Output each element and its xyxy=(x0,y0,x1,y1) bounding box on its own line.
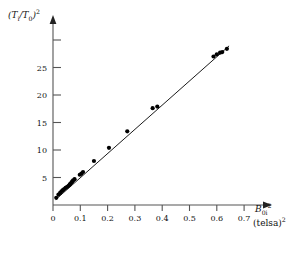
axes-group xyxy=(50,15,272,208)
y-axis-label: (Ti/T0)2 xyxy=(8,11,40,20)
fit-line xyxy=(56,46,229,200)
y-tick-label: 25 xyxy=(27,63,47,72)
x-tick-label: 0.2 xyxy=(101,214,114,223)
x-axis-ticks xyxy=(53,205,244,211)
y-tick-label: 20 xyxy=(27,91,47,100)
x-tick-label: 0.3 xyxy=(129,214,142,223)
fit-line-segment xyxy=(56,46,229,200)
data-point xyxy=(107,146,111,150)
y-tick-label: 15 xyxy=(27,118,47,127)
figure-container: (Ti/T0)2 B0i2 (telsa)2 00.10.20.30.40.50… xyxy=(0,0,297,254)
y-tick-label: 5 xyxy=(27,173,47,182)
x-axis-label: B0i2 xyxy=(255,205,271,214)
x-axis-units-label: (telsa)2 xyxy=(253,219,286,228)
data-point xyxy=(225,47,229,51)
scatter-plot xyxy=(0,0,297,254)
data-point xyxy=(81,170,85,174)
data-point xyxy=(151,106,155,110)
x-tick-label: 0.7 xyxy=(238,214,251,223)
data-point xyxy=(155,104,159,108)
y-axis-ticks xyxy=(53,40,61,178)
data-point xyxy=(220,50,224,54)
data-point xyxy=(72,177,76,181)
x-tick-label: 0.4 xyxy=(156,214,169,223)
x-tick-label: 0.6 xyxy=(210,214,223,223)
data-point xyxy=(125,129,129,133)
y-tick-label: 10 xyxy=(27,146,47,155)
y-axis-arrow-icon xyxy=(50,15,57,24)
x-tick-label: 0.5 xyxy=(183,214,196,223)
x-tick-label: 0 xyxy=(50,214,55,223)
data-point xyxy=(92,159,96,163)
x-tick-label: 0.1 xyxy=(74,214,87,223)
